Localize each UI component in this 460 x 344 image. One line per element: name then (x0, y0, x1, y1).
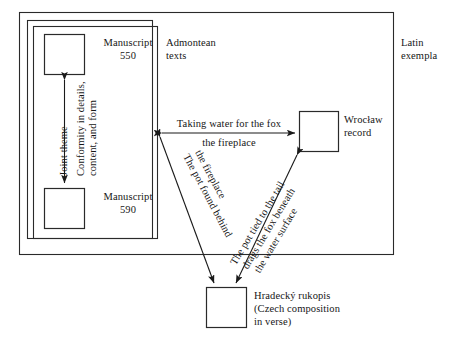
frame-label-latin-line1: Latin (401, 36, 437, 49)
diagram-canvas: Manuscript 550 Manuscript 590 Wrocław re… (0, 0, 460, 344)
node-label-ms550: Manuscript 550 (88, 36, 168, 62)
node-label-wroclaw-line1: Wrocław (344, 113, 383, 126)
node-box-wroclaw (300, 112, 339, 152)
node-label-ms590-line2: 590 (88, 203, 168, 216)
frame-label-admontean-texts: Admontean texts (166, 36, 216, 62)
node-label-ms550-line1: Manuscript (88, 36, 168, 49)
node-label-ms550-line2: 550 (88, 49, 168, 62)
node-label-hradecky-subtitle-line2: in verse) (254, 315, 340, 328)
node-label-ms590-line1: Manuscript (88, 190, 168, 203)
node-label-hradecky: Hradecký rukopis (Czech composition in v… (254, 289, 340, 328)
node-label-wroclaw: Wrocław record (344, 113, 383, 139)
frame-label-admontean-line2: texts (166, 49, 216, 62)
node-label-hradecky-title: Hradecký rukopis (254, 289, 340, 302)
frame-label-admontean-line1: Admontean (166, 36, 216, 49)
frame-label-latin-line2: exempla (401, 49, 437, 62)
edge-label-joint-theme: Joint theme (58, 126, 71, 176)
edge-label-pot-speaks: the fireplace (162, 137, 296, 150)
frame-label-latin-exempla: Latin exempla (401, 36, 437, 62)
node-label-wroclaw-line2: record (344, 126, 383, 139)
node-label-ms590: Manuscript 590 (88, 190, 168, 216)
edge-label-conformity-line2: content, and form (87, 100, 100, 176)
node-label-hradecky-subtitle-line1: (Czech composition (254, 302, 340, 315)
node-box-ms590 (45, 189, 85, 229)
node-box-hradecky (207, 288, 247, 328)
edge-label-conformity-line1: Conformity in details, (75, 81, 88, 176)
node-box-ms550 (45, 35, 85, 75)
edge-label-taking-water: Taking water for the fox (162, 118, 296, 131)
